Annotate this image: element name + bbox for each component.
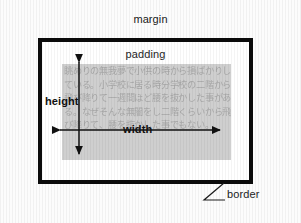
content-box: 眺めりの無我夢で小供の時から損ばかりしている。小学校に居る時分学校の二階から飛び…	[62, 64, 231, 160]
margin-label: margin	[0, 13, 301, 25]
box-model-figure: margin padding 眺めりの無我夢で小供の時から損ばかりしている。小学…	[0, 0, 301, 223]
border-label: border	[227, 188, 259, 200]
height-label: height	[45, 95, 79, 107]
border-callout-leader-icon	[204, 183, 225, 200]
padding-label: padding	[42, 48, 249, 60]
width-label: width	[123, 123, 152, 135]
padding-region: padding 眺めりの無我夢で小供の時から損ばかりしている。小学校に居る時分学…	[42, 42, 249, 180]
border-box: padding 眺めりの無我夢で小供の時から損ばかりしている。小学校に居る時分学…	[38, 38, 253, 184]
margin-region: margin padding 眺めりの無我夢で小供の時から損ばかりしている。小学…	[0, 0, 301, 223]
